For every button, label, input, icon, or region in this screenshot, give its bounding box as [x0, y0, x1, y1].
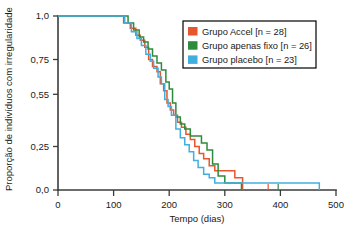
x-axis-title-text: Tempo (dias) [170, 213, 225, 224]
x-tick-label: 200 [161, 199, 177, 210]
x-tick-label: 0 [55, 199, 60, 210]
legend-swatch [188, 55, 198, 64]
y-axis-title: Proporção de indivíduos com irregularida… [3, 7, 14, 191]
x-tick-label: 500 [328, 199, 344, 210]
legend-swatch [188, 27, 198, 36]
x-tick-label: 100 [106, 199, 122, 210]
legend-label: Grupo Accel [n = 28] [202, 27, 287, 37]
x-tick-label: 400 [272, 199, 288, 210]
censor-group [268, 184, 278, 190]
x-tick-label: 300 [217, 199, 233, 210]
y-tick-label: 0,0 [36, 184, 49, 195]
y-tick-label: 0,55 [31, 89, 50, 100]
legend-label: Grupo apenas fixo [n = 26] [202, 41, 312, 51]
y-tick-label: 0,75 [31, 54, 50, 65]
y-tick-label: 0,25 [31, 141, 50, 152]
legend: Grupo Accel [n = 28]Grupo apenas fixo [n… [183, 21, 316, 68]
survival-plot: Proporção de indivíduos com irregularida… [0, 0, 346, 229]
y-axis-title-text: Proporção de indivíduos com irregularida… [3, 7, 14, 191]
x-axis-ticks: 0100200300400500 [55, 190, 344, 210]
legend-swatch [188, 41, 198, 50]
y-axis-ticks: 0,00,250,550,751,0 [31, 10, 59, 195]
legend-label: Grupo placebo [n = 23] [202, 55, 297, 65]
y-tick-label: 1,0 [36, 10, 49, 21]
chart-figure: Proporção de indivíduos com irregularida… [0, 0, 346, 229]
